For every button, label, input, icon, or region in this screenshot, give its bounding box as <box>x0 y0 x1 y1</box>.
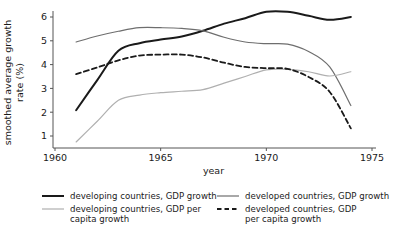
x-axis-tick-label: 1965 <box>149 152 173 163</box>
x-axis-title: year <box>203 165 224 176</box>
x-axis-tick-label: 1970 <box>254 152 278 163</box>
chart-axes: 1234561960196519701975yearsmoothed avera… <box>2 11 384 176</box>
series-line-3 <box>76 54 351 128</box>
y-axis-tick-label: 4 <box>41 59 47 70</box>
chart-series <box>76 11 351 142</box>
x-axis-tick-label: 1960 <box>43 152 67 163</box>
x-axis-tick-label: 1975 <box>360 152 384 163</box>
legend-label-0: developing countries, GDP growth <box>70 191 217 201</box>
series-line-2 <box>76 69 351 142</box>
y-axis-tick-label: 6 <box>41 11 47 22</box>
series-line-1 <box>76 27 351 105</box>
chart-legend: developing countries, GDP growthdevelope… <box>42 191 389 224</box>
y-axis-tick-label: 3 <box>41 83 47 94</box>
y-axis-title-unit: rate (%) <box>14 63 25 102</box>
legend-label-2: developing countries, GDP per <box>70 204 202 214</box>
y-axis-title: smoothed average growth <box>2 20 13 145</box>
legend-label-3: developed countries, GDP <box>245 204 357 214</box>
line-chart: 1234561960196519701975yearsmoothed avera… <box>0 0 395 231</box>
y-axis-tick-label: 1 <box>41 130 47 141</box>
y-axis-tick-label: 5 <box>41 35 47 46</box>
chart-figure: 1234561960196519701975yearsmoothed avera… <box>0 0 395 231</box>
legend-label-3-line2: per capita growth <box>245 214 321 224</box>
legend-label-2-line2: capita growth <box>70 214 129 224</box>
legend-label-1: developed countries, GDP growth <box>245 191 389 201</box>
y-axis-tick-label: 2 <box>41 107 47 118</box>
